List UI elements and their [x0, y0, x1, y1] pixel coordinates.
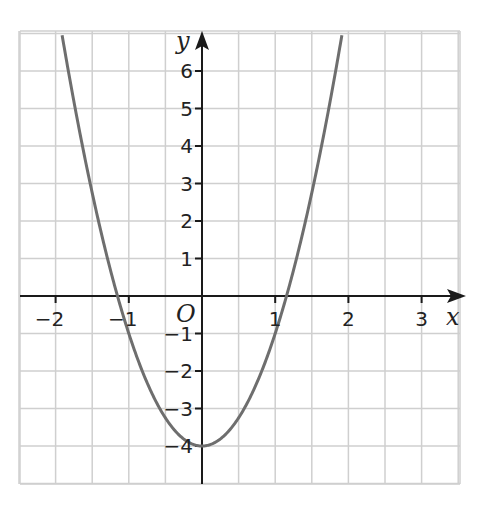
y-tick-label: −2	[164, 359, 193, 383]
y-tick-label: −4	[164, 434, 193, 458]
x-tick-label: −2	[35, 307, 64, 331]
y-tick-label: 2	[180, 209, 193, 233]
x-axis-label: x	[446, 303, 460, 331]
origin-label: O	[176, 300, 196, 328]
y-tick-label: 3	[180, 172, 193, 196]
x-tick-label: 1	[269, 307, 282, 331]
y-tick-label: 6	[180, 59, 193, 83]
y-axis-label: y	[175, 27, 190, 55]
parabola-chart: −2−1123−4−3−2−1123456 x y O	[0, 0, 480, 521]
y-tick-label: 1	[180, 247, 193, 271]
x-tick-label: 2	[342, 307, 355, 331]
y-tick-label: −3	[164, 397, 193, 421]
y-tick-label: 5	[180, 97, 193, 121]
axes	[20, 31, 466, 484]
y-tick-label: 4	[180, 134, 193, 158]
x-tick-label: 3	[415, 307, 428, 331]
x-tick-label: −1	[108, 307, 137, 331]
